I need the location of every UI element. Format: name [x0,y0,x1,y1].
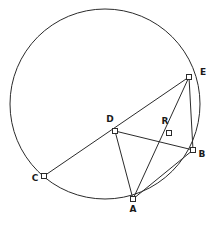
point-marker-c [42,174,47,179]
circle-outline-group [10,9,200,199]
segment-d-a [115,131,133,199]
segment-a-b [133,150,193,199]
point-marker-d [113,129,118,134]
point-label-e: E [200,67,206,77]
segment-d-b [115,131,193,150]
geometry-canvas: ABCDER [0,0,222,228]
point-marker-b [191,148,196,153]
point-labels-group: ABCDER [32,67,206,214]
point-label-b: B [199,149,206,159]
point-marker-a [131,197,136,202]
point-markers-group [42,75,196,202]
circle-outline [10,9,200,199]
segment-e-b [189,77,193,150]
point-label-d: D [106,114,113,124]
point-label-c: C [32,173,39,183]
point-marker-e [187,75,192,80]
point-label-a: A [130,204,137,214]
point-marker-r [167,131,172,136]
chord-segments-group [44,77,193,199]
geometry-figure: ABCDER [0,0,222,228]
point-label-r: R [162,116,169,126]
segment-c-e [44,77,189,176]
